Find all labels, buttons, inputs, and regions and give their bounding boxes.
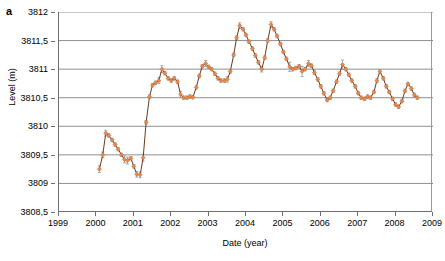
y-tick-mark	[51, 155, 55, 156]
x-tick-label: 2007	[347, 218, 367, 228]
x-tick-mark	[95, 212, 96, 216]
x-tick-label: 2004	[235, 218, 255, 228]
x-axis-title: Date (year)	[58, 238, 432, 248]
y-tick-label: 3810,5	[20, 93, 48, 103]
plot-area	[58, 12, 432, 212]
x-tick-mark	[133, 212, 134, 216]
x-tick-mark	[432, 212, 433, 216]
y-tick-mark	[51, 126, 55, 127]
y-axis-ticks: 3808,538093809,538103810,538113811,53812	[0, 12, 55, 212]
y-tick-mark	[51, 212, 55, 213]
y-tick-label: 3808,5	[20, 207, 48, 217]
x-tick-label: 1999	[48, 218, 68, 228]
y-tick-mark	[51, 98, 55, 99]
y-tick-label: 3810	[28, 121, 48, 131]
x-tick-label: 2002	[160, 218, 180, 228]
x-tick-label: 2000	[85, 218, 105, 228]
x-tick-mark	[245, 212, 246, 216]
x-tick-label: 2009	[422, 218, 442, 228]
series-canvas	[59, 12, 433, 212]
y-tick-label: 3812	[28, 7, 48, 17]
y-tick-mark	[51, 41, 55, 42]
y-tick-mark	[51, 69, 55, 70]
x-tick-label: 2005	[272, 218, 292, 228]
x-tick-mark	[395, 212, 396, 216]
y-tick-mark	[51, 12, 55, 13]
x-tick-mark	[320, 212, 321, 216]
x-tick-mark	[282, 212, 283, 216]
x-tick-mark	[58, 212, 59, 216]
y-tick-mark	[51, 183, 55, 184]
y-tick-label: 3811	[29, 64, 48, 74]
x-tick-label: 2006	[310, 218, 330, 228]
x-axis-ticks: 1999200020012002200320042005200620072008…	[58, 212, 432, 238]
x-tick-mark	[357, 212, 358, 216]
x-tick-label: 2008	[385, 218, 405, 228]
x-tick-label: 2001	[123, 218, 143, 228]
y-tick-label: 3809	[28, 178, 48, 188]
chart-figure: a Level (m) 3808,538093809,538103810,538…	[0, 0, 445, 261]
y-tick-label: 3809,5	[20, 150, 48, 160]
x-tick-mark	[170, 212, 171, 216]
x-tick-mark	[208, 212, 209, 216]
y-tick-label: 3811,5	[21, 36, 48, 46]
x-tick-label: 2003	[198, 218, 218, 228]
